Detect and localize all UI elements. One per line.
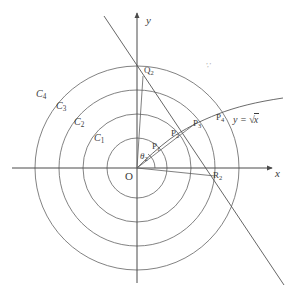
circle-label-c1-base: C (94, 132, 101, 143)
point-label-p2-sub: 2 (176, 132, 179, 139)
origin-label: O (125, 171, 133, 182)
point-label-p1-sub: 1 (157, 145, 160, 152)
figure-canvas: y x O C4 C3 C2 C1 P1 P2 P3 P4 Q2 R2 θ2 y… (0, 0, 298, 293)
faint-mark: ∵ (205, 62, 210, 70)
point-label-p3-sub: 3 (198, 122, 201, 129)
diagram-svg (0, 0, 298, 293)
circle-label-c4-sub: 4 (43, 93, 47, 101)
circle-label-c3: C3 (56, 101, 66, 113)
point-label-p1: P1 (152, 142, 160, 152)
point-label-p3: P3 (193, 119, 201, 129)
circle-label-c1-sub: 1 (101, 137, 105, 145)
x-axis-label: x (275, 168, 280, 179)
point-label-r2: R2 (213, 171, 222, 181)
point-label-p4: P4 (216, 113, 224, 123)
circle-label-c2-base: C (74, 116, 81, 127)
point-label-q2-sub: 2 (151, 69, 154, 76)
angle-label-theta2: θ2 (140, 152, 148, 162)
circle-label-c3-base: C (56, 100, 63, 111)
point-label-p4-sub: 4 (221, 116, 224, 123)
circle-label-c2-sub: 2 (81, 121, 85, 129)
circle-label-c2: C2 (74, 117, 84, 129)
point-label-r2-sub: 2 (219, 174, 222, 181)
ray-origin-to-r2 (137, 168, 215, 176)
y-axis-label: y (146, 15, 151, 26)
point-label-q2: Q2 (144, 66, 154, 76)
curve-equation-eq: = (240, 114, 247, 125)
circle-label-c4-base: C (36, 88, 43, 99)
circle-label-c3-sub: 3 (63, 105, 67, 113)
point-label-p2: P2 (171, 129, 179, 139)
circle-label-c1: C1 (94, 133, 104, 145)
circle-label-c4: C4 (36, 89, 46, 101)
curve-equation-radicand: x (254, 113, 259, 125)
angle-label-theta2-sub: 2 (144, 155, 147, 162)
curve-equation-label: y = √x (233, 115, 259, 125)
curve-y-equals-sqrt-x (137, 98, 283, 168)
line-q2-r2 (104, 16, 284, 285)
